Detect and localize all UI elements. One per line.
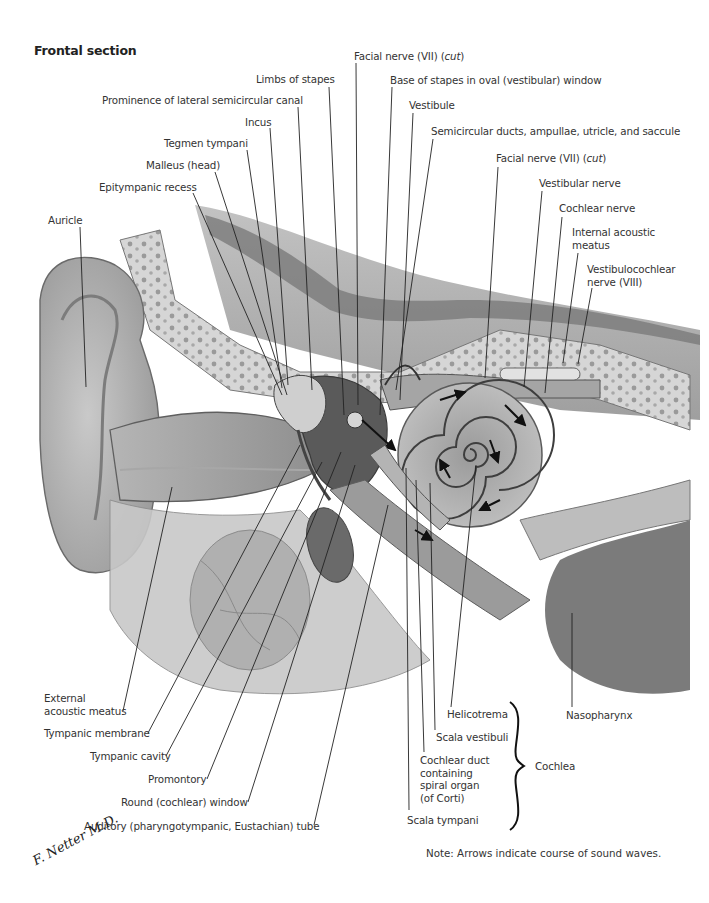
label-malleus-head: Malleus (head): [146, 159, 220, 172]
anatomy-figure: Frontal section: [0, 0, 709, 903]
label-scala-vestibuli: Scala vestibuli: [436, 731, 508, 744]
label-vestibule: Vestibule: [409, 99, 455, 112]
label-auricle: Auricle: [48, 214, 82, 227]
cochlea-brace: [510, 702, 524, 830]
label-tympanic-cavity: Tympanic cavity: [90, 750, 171, 763]
label-semicircular-ducts: Semicircular ducts, ampullae, utricle, a…: [431, 125, 680, 138]
label-incus: Incus: [245, 116, 271, 129]
label-facial-nerve-cut-right: Facial nerve (VII) (cut): [496, 152, 606, 165]
label-limbs-of-stapes: Limbs of stapes: [256, 73, 335, 86]
label-facial-nerve-cut-top: Facial nerve (VII) (cut): [354, 50, 464, 63]
label-prominence-lateral-semicircular-canal: Prominence of lateral semicircular canal: [102, 94, 303, 107]
label-base-of-stapes: Base of stapes in oval (vestibular) wind…: [390, 74, 602, 87]
label-nasopharynx: Nasopharynx: [566, 709, 632, 722]
external-canal: [110, 412, 320, 501]
label-external-acoustic-meatus: External acoustic meatus: [44, 692, 126, 717]
figure-note: Note: Arrows indicate course of sound wa…: [426, 847, 661, 859]
label-cochlea: Cochlea: [535, 760, 575, 773]
label-internal-acoustic-meatus: Internal acoustic meatus: [572, 226, 655, 251]
label-round-window: Round (cochlear) window: [121, 796, 248, 809]
label-cochlear-duct: Cochlear duct containing spiral organ (o…: [420, 754, 490, 804]
label-epitympanic-recess: Epitympanic recess: [99, 181, 197, 194]
label-tegmen-tympani: Tegmen tympani: [164, 137, 248, 150]
label-scala-tympani: Scala tympani: [407, 814, 478, 827]
label-vestibulocochlear-nerve: Vestibulocochlear nerve (VIII): [587, 263, 675, 288]
label-vestibular-nerve: Vestibular nerve: [539, 177, 621, 190]
label-promontory: Promontory: [148, 773, 206, 786]
label-helicotrema: Helicotrema: [447, 708, 508, 721]
label-cochlear-nerve: Cochlear nerve: [559, 202, 635, 215]
label-tympanic-membrane: Tympanic membrane: [44, 727, 150, 740]
